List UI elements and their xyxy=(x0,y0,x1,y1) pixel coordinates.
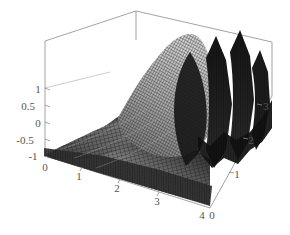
z-tick-label: -0.5 xyxy=(16,134,34,146)
y-tick-label: 0 xyxy=(209,209,215,221)
surface-plot-figure: 1 0.5 0 -0.5 -1 0 1 2 3 4 0 1 2 3 xyxy=(0,0,290,235)
x-tick-label: 2 xyxy=(114,182,120,194)
z-axis-tick-labels: 1 0.5 0 -0.5 -1 xyxy=(16,83,41,162)
z-tick-label: 0.5 xyxy=(21,100,35,112)
x-tick-label: 3 xyxy=(154,195,160,207)
x-tick-label: 4 xyxy=(199,209,205,221)
y-tick-label: 1 xyxy=(234,168,240,180)
x-tick-label: 0 xyxy=(42,161,48,173)
y-tick-label: 3 xyxy=(263,100,269,112)
z-tick-label: 1 xyxy=(35,83,41,95)
z-tick-label: -1 xyxy=(28,150,37,162)
plot-canvas: 1 0.5 0 -0.5 -1 0 1 2 3 4 0 1 2 3 xyxy=(0,0,290,235)
x-tick-label: 1 xyxy=(76,170,82,182)
y-tick-label: 2 xyxy=(248,134,254,146)
z-tick-label: 0 xyxy=(35,117,41,129)
